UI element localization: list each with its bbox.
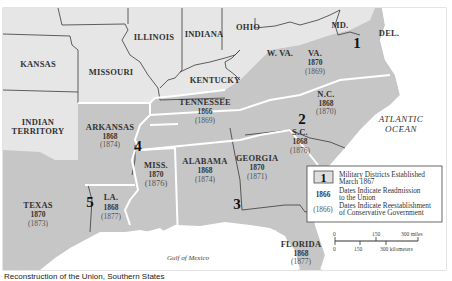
svg-text:(1873): (1873) xyxy=(28,219,48,228)
svg-text:ARKANSAS: ARKANSAS xyxy=(86,122,134,132)
svg-text:150: 150 xyxy=(372,231,381,237)
svg-text:(1876): (1876) xyxy=(145,178,168,188)
svg-text:(1877): (1877) xyxy=(101,212,121,221)
label-del: DEL. xyxy=(379,28,399,38)
svg-text:N.C.: N.C. xyxy=(317,89,334,99)
svg-text:TENNESSEE: TENNESSEE xyxy=(179,97,231,107)
svg-text:(1871): (1871) xyxy=(247,172,267,181)
svg-text:March 1867: March 1867 xyxy=(339,177,375,186)
svg-text:(1876): (1876) xyxy=(290,146,310,155)
district-2-marker: 2 xyxy=(298,111,306,127)
district-4-marker: 4 xyxy=(134,138,142,154)
svg-text:VA.: VA. xyxy=(308,48,322,58)
label-atlantic-2: OCEAN xyxy=(385,124,417,134)
map-caption: Reconstruction of the Union, Southern St… xyxy=(4,272,165,281)
svg-text:(1874): (1874) xyxy=(100,140,120,149)
svg-text:300 miles: 300 miles xyxy=(401,231,423,237)
svg-text:LA.: LA. xyxy=(104,192,119,202)
label-ohio: OHIO xyxy=(236,22,260,32)
svg-text:TEXAS: TEXAS xyxy=(23,200,52,210)
svg-text:(1870): (1870) xyxy=(316,107,336,116)
svg-text:(1869): (1869) xyxy=(305,67,325,76)
label-missouri: MISSOURI xyxy=(89,67,134,77)
label-kansas: KANSAS xyxy=(20,59,56,69)
svg-text:1870: 1870 xyxy=(31,210,46,219)
reconstruction-map: KANSAS MISSOURI ILLINOIS INDIANA OHIO W.… xyxy=(0,0,452,281)
svg-text:(1866): (1866) xyxy=(313,205,333,214)
district-1-marker: 1 xyxy=(353,35,361,51)
label-wva: W. VA. xyxy=(267,48,293,58)
svg-text:1: 1 xyxy=(321,171,327,185)
label-md: MD. xyxy=(332,20,349,30)
label-kentucky: KENTUCKY xyxy=(190,75,241,85)
svg-text:FLORIDA: FLORIDA xyxy=(281,239,322,249)
svg-text:(1869): (1869) xyxy=(195,116,215,125)
svg-text:(1874): (1874) xyxy=(195,175,215,184)
svg-text:150: 150 xyxy=(354,246,363,252)
svg-text:0: 0 xyxy=(333,231,336,237)
label-indian-territory-2: TERRITORY xyxy=(12,126,65,136)
district-3-marker: 3 xyxy=(233,196,241,212)
svg-text:MISS.: MISS. xyxy=(144,160,168,170)
svg-text:1866: 1866 xyxy=(316,190,331,199)
state-south-carolina: S.C. 1868 (1876) xyxy=(290,127,310,155)
svg-text:0: 0 xyxy=(333,246,336,252)
label-illinois: ILLINOIS xyxy=(134,32,174,42)
svg-text:1868: 1868 xyxy=(104,203,119,212)
svg-text:300 kilometers: 300 kilometers xyxy=(380,246,413,252)
label-indiana: INDIANA xyxy=(185,29,224,39)
svg-text:1870: 1870 xyxy=(250,163,265,172)
svg-text:1868: 1868 xyxy=(293,137,308,146)
svg-text:(1877): (1877) xyxy=(291,257,311,266)
label-gulf-of-mexico: Gulf of Mexico xyxy=(167,254,209,262)
svg-text:1870: 1870 xyxy=(308,58,323,67)
label-atlantic-1: ATLANTIC xyxy=(378,114,424,124)
svg-text:1868: 1868 xyxy=(198,166,213,175)
svg-text:GEORGIA: GEORGIA xyxy=(236,153,279,163)
svg-text:S.C.: S.C. xyxy=(292,127,308,137)
svg-text:ALABAMA: ALABAMA xyxy=(182,156,228,166)
svg-text:1866: 1866 xyxy=(198,107,213,116)
district-5-marker: 5 xyxy=(86,194,94,210)
legend: 1 Military Districts Established March 1… xyxy=(307,166,442,222)
state-north-carolina: N.C. 1868 (1870) xyxy=(316,89,336,116)
svg-text:of Conservative Government: of Conservative Government xyxy=(339,208,424,217)
